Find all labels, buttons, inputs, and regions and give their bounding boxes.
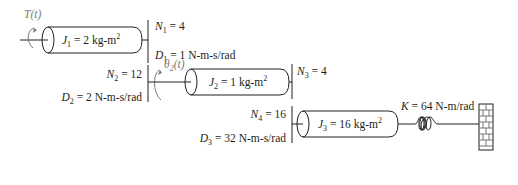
j2-label: J2 = 1 kg-m2 xyxy=(209,74,267,91)
fixed-wall xyxy=(479,104,493,150)
n1-label: N1 = 4 xyxy=(154,20,185,35)
torque-arrow-icon xyxy=(28,28,34,48)
gear-train-diagram: T(t) J1 = 2 kg-m2 N1 = 4 D1 = 1 N-m-s/ra… xyxy=(0,0,518,185)
n3-label: N3 = 4 xyxy=(296,65,327,80)
n2-label: N2 = 12 xyxy=(106,68,143,83)
j3-label: J3 = 16 kg-m2 xyxy=(318,116,382,133)
input-torque: T(t) xyxy=(20,8,48,48)
torque-arrowhead-icon xyxy=(33,28,37,33)
j1-label: J1 = 2 kg-m2 xyxy=(62,32,120,49)
spring-k: K = 64 N-m/rad xyxy=(398,100,479,130)
inertia-j3: J3 = 16 kg-m2 xyxy=(297,111,398,137)
spring-coil-icon xyxy=(398,117,479,130)
d2-label: D2 = 2 N-m-s/rad xyxy=(61,91,143,106)
d3-label: D3 = 32 N-m-s/rad xyxy=(199,132,286,147)
k-label: K = 64 N-m/rad xyxy=(400,100,475,112)
n4-label: N4 = 16 xyxy=(250,108,287,123)
theta2-label: θ2(t) xyxy=(164,58,185,73)
theta2-arrow-icon xyxy=(155,70,162,100)
inertia-j1: J1 = 2 kg-m2 xyxy=(42,27,148,53)
torque-label: T(t) xyxy=(24,8,41,21)
inertia-j2: J2 = 1 kg-m2 xyxy=(185,69,292,95)
